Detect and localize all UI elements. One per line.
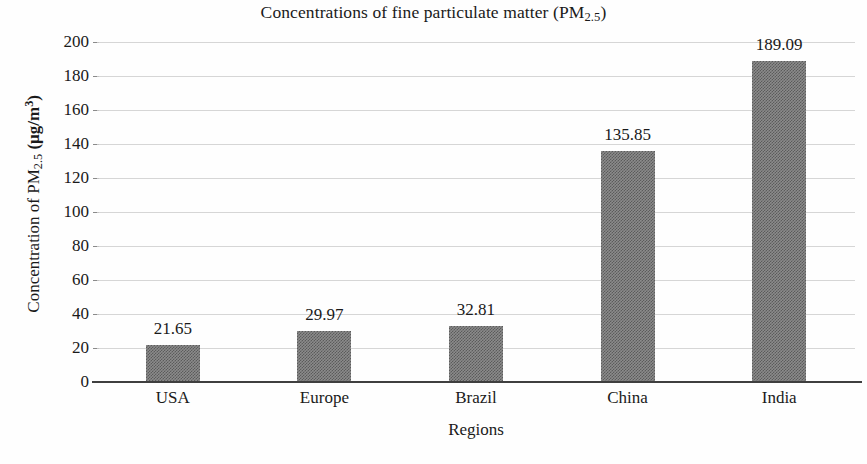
chart-title-subscript: 2.5 — [584, 10, 600, 24]
x-axis-line — [92, 381, 862, 383]
x-axis-title: Regions — [97, 420, 855, 440]
y-axis-tick-label: 60 — [31, 271, 89, 288]
chart-title-suffix: ) — [600, 2, 606, 22]
bar-slot: 135.85 — [552, 42, 704, 382]
bar — [752, 61, 806, 382]
bar-value-label: 29.97 — [305, 305, 343, 325]
x-axis-tick-labels: USAEuropeBrazilChinaIndia — [97, 388, 855, 414]
y-axis-tick-label: 0 — [31, 373, 89, 390]
y-axis-tick-label: 100 — [31, 203, 89, 220]
y-axis-tick-label: 40 — [31, 305, 89, 322]
bar — [297, 331, 351, 382]
y-axis-tick-label: 140 — [31, 135, 89, 152]
chart-figure: Concentrations of fine particulate matte… — [0, 0, 867, 464]
bar — [146, 345, 200, 382]
bar-value-label: 32.81 — [457, 300, 495, 320]
bar — [449, 326, 503, 382]
bar — [601, 151, 655, 382]
x-axis-tick-label: Europe — [249, 388, 401, 408]
bar-slot: 21.65 — [97, 42, 249, 382]
y-axis-tick-label: 120 — [31, 169, 89, 186]
bar-value-label: 21.65 — [154, 319, 192, 339]
chart-title: Concentrations of fine particulate matte… — [0, 2, 867, 25]
y-axis-tick-labels: 200180160140120100806040200 — [27, 42, 89, 382]
bar-value-label: 135.85 — [604, 125, 651, 145]
y-axis-tick-label: 180 — [31, 67, 89, 84]
x-axis-tick-label: Brazil — [400, 388, 552, 408]
y-axis-tick-label: 200 — [31, 33, 89, 50]
x-axis-tick-label: USA — [97, 388, 249, 408]
y-axis-tick-label: 20 — [31, 339, 89, 356]
bar-value-label: 189.09 — [756, 35, 803, 55]
x-axis-tick-label: India — [703, 388, 855, 408]
bar-slot: 32.81 — [400, 42, 552, 382]
bar-slot: 29.97 — [249, 42, 401, 382]
y-axis-tick-label: 160 — [31, 101, 89, 118]
x-axis-tick-label: China — [552, 388, 704, 408]
y-axis-tick-label: 80 — [31, 237, 89, 254]
plot-area: 21.6529.9732.81135.85189.09 — [97, 42, 855, 382]
bar-slot: 189.09 — [703, 42, 855, 382]
chart-title-text: Concentrations of fine particulate matte… — [261, 2, 585, 22]
